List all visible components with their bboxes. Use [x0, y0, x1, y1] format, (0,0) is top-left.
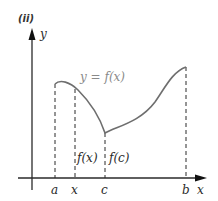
x-axis-arrow-icon — [195, 175, 207, 182]
y-axis-arrow-icon — [29, 28, 36, 40]
graph-figure: (ii) y x y = f(x) f(x) f(c) a x c b — [0, 0, 218, 201]
y-axis: y — [29, 27, 48, 190]
tick-c: c — [101, 183, 108, 197]
panel-label: (ii) — [18, 13, 34, 24]
tick-b: b — [182, 183, 190, 197]
fc-label: f(c) — [108, 151, 130, 165]
x-axis-label: x — [197, 183, 204, 197]
tick-x: x — [71, 183, 78, 197]
fx-label: f(x) — [76, 151, 98, 165]
tick-a: a — [51, 183, 58, 197]
curve-label: y = f(x) — [79, 70, 125, 84]
x-axis: x — [18, 175, 207, 198]
y-axis-label: y — [39, 27, 47, 41]
